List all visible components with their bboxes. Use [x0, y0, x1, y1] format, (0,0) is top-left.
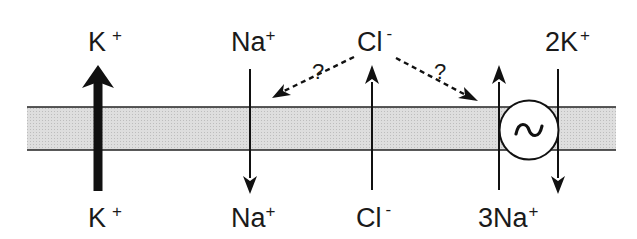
membrane-transport-diagram: ? ? K+ Na+ Cl- 2K+ K+ Na+ Cl- 3Na+: [0, 0, 637, 239]
dashed-left-arrow-head-icon: [272, 84, 291, 98]
label-bottom-cl: Cl-: [356, 200, 391, 233]
dashed-right-arrow-head-icon: [458, 87, 478, 101]
question-mark-right: ?: [434, 59, 446, 84]
label-top-2k: 2K+: [545, 26, 590, 57]
label-bottom-na: Na+: [231, 202, 276, 233]
label-top-k: K+: [88, 26, 122, 57]
na-k-pump: [500, 101, 559, 160]
k-arrow-shaft: [94, 80, 103, 191]
pump-na-arrow-head-icon: [492, 65, 506, 84]
pump-k-arrow-head-icon: [551, 176, 565, 194]
label-bottom-3na: 3Na+: [478, 202, 539, 233]
question-mark-left: ?: [312, 59, 324, 84]
label-top-na: Na+: [231, 26, 276, 57]
cl-arrow-head-icon: [365, 65, 379, 84]
label-top-cl: Cl-: [357, 24, 392, 57]
label-bottom-k: K+: [88, 202, 122, 233]
na-arrow-head-icon: [243, 176, 257, 194]
